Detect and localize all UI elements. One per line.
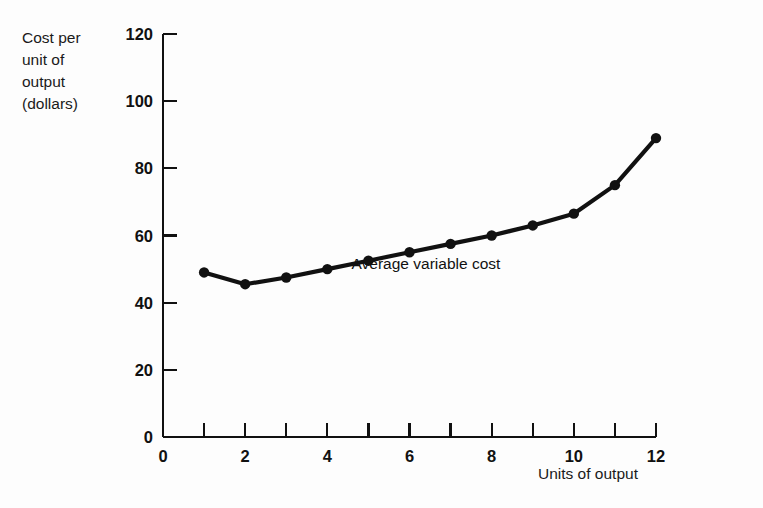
series-marker: [322, 264, 332, 274]
y-axis-ticks: [163, 34, 177, 370]
y-axis-tick-label: 60: [135, 227, 153, 245]
x-axis-ticks: [204, 423, 656, 437]
series-marker: [569, 208, 579, 218]
y-axis-tick-label: 20: [135, 361, 153, 379]
y-axis-tick-label: 120: [125, 25, 153, 43]
y-axis-tick-labels: 020406080100120: [125, 25, 153, 446]
x-axis-tick-label: 0: [158, 447, 167, 465]
series-marker: [610, 180, 620, 190]
x-axis-tick-label: 4: [323, 447, 333, 465]
y-axis-tick-label: 40: [135, 294, 153, 312]
y-axis-tick-label: 0: [144, 428, 153, 446]
series-marker: [240, 279, 250, 289]
x-axis-tick-label: 8: [487, 447, 496, 465]
series-marker: [528, 220, 538, 230]
chart-annotations: Average variable cost: [352, 255, 501, 272]
x-axis-tick-labels: 024681012: [158, 447, 665, 465]
series-marker: [651, 133, 661, 143]
series-marker: [199, 267, 209, 277]
x-axis-tick-label: 6: [405, 447, 414, 465]
x-axis-tick-label: 2: [241, 447, 250, 465]
chart-figure: Cost per unit of output (dollars) Units …: [0, 0, 763, 508]
y-axis-tick-label: 80: [135, 159, 153, 177]
x-axis-tick-label: 12: [647, 447, 665, 465]
y-axis-tick-label: 100: [125, 92, 153, 110]
series-marker: [281, 272, 291, 282]
chart-plot-area: 020406080100120 024681012 Average variab…: [0, 0, 763, 508]
series-marker: [445, 239, 455, 249]
x-axis-tick-label: 10: [565, 447, 583, 465]
series-marker: [486, 230, 496, 240]
series-annotation-label: Average variable cost: [352, 255, 501, 272]
